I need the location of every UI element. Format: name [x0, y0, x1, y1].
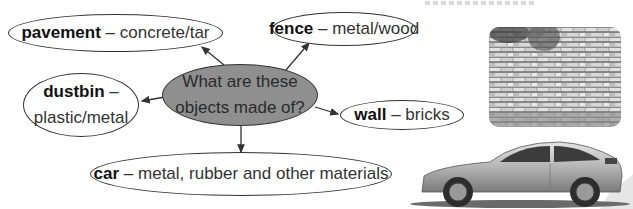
- node-pavement: pavement – concrete/tar: [8, 14, 223, 52]
- term-wall: wall: [354, 105, 386, 124]
- material-fence: metal/wood: [332, 19, 419, 38]
- term-fence: fence: [269, 19, 313, 38]
- arrow-to-wall: [315, 107, 338, 114]
- car-photo: [400, 134, 633, 209]
- node-fence: fence – metal/wood: [272, 12, 416, 46]
- material-pavement: concrete/tar: [120, 23, 210, 42]
- term-dustbin: dustbin: [43, 82, 104, 101]
- term-car: car: [94, 164, 120, 183]
- material-wall: bricks: [405, 105, 449, 124]
- material-dustbin: plastic/metal: [34, 105, 128, 131]
- material-car: metal, rubber and other materials: [138, 164, 388, 183]
- arrow-to-fence: [286, 43, 309, 70]
- node-car: car – metal, rubber and other materials: [90, 152, 392, 196]
- node-wall: wall – bricks: [340, 100, 464, 130]
- stone-wall-photo: [489, 27, 621, 127]
- term-pavement: pavement: [21, 23, 100, 42]
- center-question: What are these objects made of?: [162, 64, 318, 126]
- arrow-to-pavement: [202, 47, 224, 65]
- node-dustbin: dustbin – plastic/metal: [23, 73, 139, 137]
